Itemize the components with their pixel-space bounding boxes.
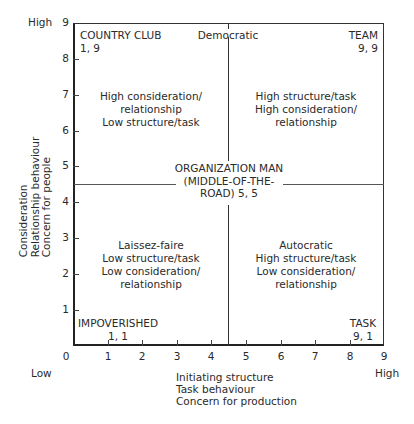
y-tick-label-2: 2 <box>55 267 69 279</box>
impoverished-label: IMPOVERISHED 1, 1 <box>78 317 158 343</box>
x-axis-title-line-3: Concern for production <box>176 395 297 407</box>
x-tick-label-6: 6 <box>274 350 288 362</box>
y-tick-5 <box>73 166 79 167</box>
vertical-divider-upper <box>228 37 229 161</box>
org-man-line-1: ORGANIZATION MAN <box>168 162 290 175</box>
quadrant-top-left-line-3: Low structure/task <box>80 116 222 129</box>
x-axis-title-line-2: Task behaviour <box>176 383 297 395</box>
y-tick-label-8: 8 <box>55 52 69 64</box>
x-high-label: High <box>375 367 399 380</box>
quadrant-top-left-line-1: High consideration/ <box>80 90 222 103</box>
org-man-line-2: (MIDDLE-OF-THE- <box>168 175 290 188</box>
country-club-label: COUNTRY CLUB 1, 9 <box>80 29 161 55</box>
x-tick-label-2: 2 <box>135 350 149 362</box>
task-label: TASK 9, 1 <box>345 317 381 343</box>
team-coords: 9, 9 <box>320 42 378 55</box>
quadrant-bottom-left: Laissez-faire Low structure/task Low con… <box>80 239 222 291</box>
x-tick-label-3: 3 <box>170 350 184 362</box>
y-tick-6 <box>73 131 79 132</box>
quadrant-bottom-left-line-2: Low structure/task <box>80 252 222 265</box>
country-club-name: COUNTRY CLUB <box>80 29 161 42</box>
org-man-line-3: ROAD) 5, 5 <box>168 187 290 200</box>
x-tick-label-0: 0 <box>59 350 73 362</box>
quadrant-top-right-line-1: High structure/task <box>234 90 378 103</box>
x-tick-label-5: 5 <box>239 350 253 362</box>
task-name: TASK <box>345 317 381 330</box>
quadrant-bottom-right-line-3: Low consideration/ <box>234 265 378 278</box>
y-tick-label-7: 7 <box>55 88 69 100</box>
y-tick-2 <box>73 274 79 275</box>
quadrant-bottom-right-line-1: Autocratic <box>234 239 378 252</box>
quadrant-top-right-line-2: High consideration/ <box>234 103 378 116</box>
x-tick-7 <box>315 340 316 346</box>
x-axis-title-line-1: Initiating structure <box>176 371 297 383</box>
x-tick-label-7: 7 <box>308 350 322 362</box>
y-tick-label-4: 4 <box>55 195 69 207</box>
horizontal-divider-left <box>74 184 176 185</box>
horizontal-divider-right <box>283 184 384 185</box>
y-axis-title-line-3: Concern for people <box>41 137 53 258</box>
quadrant-bottom-right: Autocratic High structure/task Low consi… <box>234 239 378 291</box>
x-axis-title: Initiating structure Task behaviour Conc… <box>176 371 297 407</box>
y-axis-title: Consideration Relationship behaviour Con… <box>18 137 53 258</box>
x-tick-5 <box>246 340 247 346</box>
quadrant-bottom-left-line-1: Laissez-faire <box>80 239 222 252</box>
x-tick-6 <box>281 340 282 346</box>
team-label: TEAM 9, 9 <box>320 29 378 55</box>
team-name: TEAM <box>320 29 378 42</box>
x-tick-label-1: 1 <box>101 350 115 362</box>
y-tick-label-1: 1 <box>55 303 69 315</box>
y-tick-8 <box>73 59 79 60</box>
quadrant-top-right: High structure/task High consideration/ … <box>234 90 378 129</box>
y-tick-4 <box>73 202 79 203</box>
x-tick-label-8: 8 <box>343 350 357 362</box>
x-tick-3 <box>177 340 178 346</box>
impoverished-coords: 1, 1 <box>78 330 158 343</box>
task-coords: 9, 1 <box>345 330 381 343</box>
quadrant-bottom-left-line-3: Low consideration/ <box>80 265 222 278</box>
country-club-coords: 1, 9 <box>80 42 161 55</box>
quadrant-bottom-right-line-4: relationship <box>234 278 378 291</box>
impoverished-name: IMPOVERISHED <box>78 317 158 330</box>
quadrant-top-left: High consideration/ relationship Low str… <box>80 90 222 129</box>
x-low-label: Low <box>31 367 52 380</box>
quadrant-bottom-right-line-2: High structure/task <box>234 252 378 265</box>
organization-man-label: ORGANIZATION MAN (MIDDLE-OF-THE- ROAD) 5… <box>168 162 290 200</box>
quadrant-top-right-line-3: relationship <box>234 116 378 129</box>
y-tick-3 <box>73 238 79 239</box>
y-tick-label-9: 9 <box>55 16 69 28</box>
vertical-divider-lower <box>228 205 229 346</box>
quadrant-bottom-left-line-4: relationship <box>80 278 222 291</box>
y-tick-label-3: 3 <box>55 231 69 243</box>
y-tick-1 <box>73 310 79 311</box>
y-tick-7 <box>73 95 79 96</box>
x-tick-label-9: 9 <box>377 350 391 362</box>
x-tick-label-4: 4 <box>204 350 218 362</box>
x-tick-4 <box>211 340 212 346</box>
y-tick-label-6: 6 <box>55 124 69 136</box>
y-high-label: High <box>28 16 52 29</box>
y-tick-label-5: 5 <box>55 159 69 171</box>
democratic-label: Democratic <box>188 29 268 42</box>
y-axis-title-line-1: Consideration <box>18 137 30 258</box>
quadrant-top-left-line-2: relationship <box>80 103 222 116</box>
